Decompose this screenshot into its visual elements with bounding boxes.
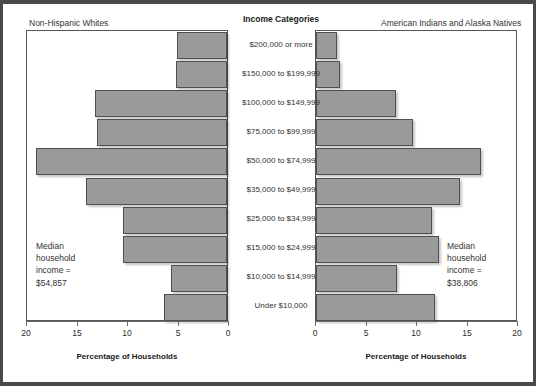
bar-left-5	[86, 178, 227, 205]
bar-row	[316, 206, 516, 235]
category-label: $200,000 or more	[231, 40, 331, 49]
axis-tick	[178, 321, 179, 326]
axis-tick-label: 10	[411, 328, 420, 338]
frame-border-bottom	[0, 382, 536, 386]
bar-row	[316, 89, 516, 118]
frame-border-top	[0, 0, 536, 4]
bar-row	[316, 293, 516, 322]
category-label: $25,000 to $34,999	[231, 214, 331, 223]
axis-tick-label: 0	[226, 328, 231, 338]
axis-tick-label: 5	[364, 328, 369, 338]
axis-tick-label: 20	[21, 328, 30, 338]
bar-row	[316, 177, 516, 206]
axis-tick	[127, 321, 128, 326]
bar-right-4	[316, 148, 481, 175]
category-label: $150,000 to $199,999	[231, 69, 331, 78]
bar-row	[27, 206, 227, 235]
bar-row	[316, 118, 516, 147]
bar-row	[27, 89, 227, 118]
axis-tick-label: 15	[462, 328, 471, 338]
bar-row	[27, 147, 227, 176]
bar-row	[27, 31, 227, 60]
axis-tick	[416, 321, 417, 326]
category-label: $50,000 to $74,999	[231, 156, 331, 165]
bar-row	[27, 118, 227, 147]
bar-row	[27, 60, 227, 89]
axis-tick	[467, 321, 468, 326]
bar-right-7	[316, 236, 439, 263]
chart-page: Non-Hispanic Whites American Indians and…	[0, 0, 536, 386]
category-label: $100,000 to $149,999	[231, 98, 331, 107]
right-panel-title: American Indians and Alaska Natives	[381, 18, 521, 28]
bar-right-9	[316, 294, 435, 321]
axis-tick	[517, 321, 518, 326]
bar-row	[316, 31, 516, 60]
axis-tick	[26, 321, 27, 326]
bar-row	[27, 177, 227, 206]
bar-left-1	[176, 61, 228, 88]
axis-tick	[77, 321, 78, 326]
bar-left-9	[164, 294, 227, 321]
bar-right-5	[316, 178, 460, 205]
bar-left-4	[36, 148, 227, 175]
bar-left-6	[123, 207, 227, 234]
income-categories-header: Income Categories	[238, 14, 324, 24]
left-axis-title: Percentage of Households	[26, 352, 228, 361]
axis-tick	[228, 321, 229, 326]
bar-left-0	[177, 32, 228, 59]
bar-row	[27, 293, 227, 322]
bar-row	[316, 60, 516, 89]
bar-row	[316, 147, 516, 176]
axis-tick-label: 15	[72, 328, 81, 338]
bar-left-2	[95, 90, 227, 117]
left-panel-title: Non-Hispanic Whites	[29, 18, 108, 28]
category-label: Under $10,000	[231, 301, 331, 310]
left-median-annotation: Median household income = $54,857	[36, 240, 75, 289]
axis-tick	[315, 321, 316, 326]
category-label: $75,000 to $99,999	[231, 127, 331, 136]
axis-tick-label: 10	[122, 328, 131, 338]
right-median-annotation: Median household income = $38,806	[447, 240, 486, 289]
category-label: $15,000 to $24,999	[231, 243, 331, 252]
axis-tick-label: 0	[313, 328, 318, 338]
bar-left-3	[97, 119, 227, 146]
category-label: $35,000 to $49,999	[231, 185, 331, 194]
bar-left-8	[171, 265, 227, 292]
bar-right-6	[316, 207, 432, 234]
axis-tick	[366, 321, 367, 326]
axis-tick-label: 5	[176, 328, 181, 338]
frame-border-left	[0, 0, 3, 386]
axis-tick-label: 20	[512, 328, 521, 338]
right-axis-title: Percentage of Households	[315, 352, 517, 361]
right-plot-area	[315, 30, 517, 321]
category-label: $10,000 to $14,999	[231, 272, 331, 281]
bar-left-7	[123, 236, 227, 263]
